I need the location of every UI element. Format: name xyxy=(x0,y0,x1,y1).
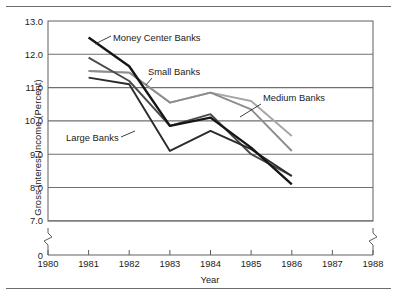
figure-page: Gross Interest Income (Percent) xyxy=(0,0,397,299)
annotation-small-banks: Small Banks xyxy=(148,66,200,77)
x-tick-1987: 1987 xyxy=(322,258,343,269)
x-tick-1985: 1985 xyxy=(241,258,262,269)
x-axis-ticks xyxy=(48,250,373,255)
x-tick-1980: 1980 xyxy=(38,258,59,269)
chart-svg: 13.0 12.0 11.0 10.0 9.0 8.0 7.0 0 1980 1… xyxy=(0,0,397,299)
x-tick-1983: 1983 xyxy=(159,258,180,269)
x-axis-title: Year xyxy=(201,274,220,285)
x-tick-1988: 1988 xyxy=(363,258,384,269)
y-axis-title: Gross Interest Income (Percent) xyxy=(32,48,43,248)
line-chart: Gross Interest Income (Percent) xyxy=(0,0,397,299)
x-axis-tick-labels: 1980 1981 1982 1983 1984 1985 1986 1987 … xyxy=(38,258,384,269)
annotation-money-center-banks: Money Center Banks xyxy=(113,32,201,43)
y-tick-13: 13.0 xyxy=(25,16,43,27)
x-tick-1981: 1981 xyxy=(78,258,99,269)
annotation-large-banks: Large Banks xyxy=(66,132,119,143)
x-tick-1982: 1982 xyxy=(119,258,140,269)
x-tick-1984: 1984 xyxy=(200,258,221,269)
x-tick-1986: 1986 xyxy=(281,258,302,269)
annotation-medium-banks: Medium Banks xyxy=(263,92,325,103)
